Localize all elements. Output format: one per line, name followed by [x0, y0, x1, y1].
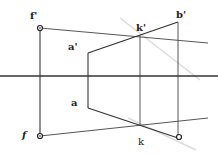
- label-k: k: [138, 136, 145, 147]
- faint-diagonal-upper: [120, 18, 200, 80]
- label-k-prime: k': [136, 22, 146, 33]
- label-a: a: [71, 97, 78, 108]
- line-from-f: [40, 118, 208, 136]
- point-f-center: [39, 135, 41, 137]
- label-f-prime: f': [30, 10, 37, 21]
- label-f: f: [21, 129, 28, 140]
- edge-a-prime-b-prime: [88, 22, 178, 53]
- label-a-prime: a': [68, 41, 78, 52]
- point-b-icon: [177, 135, 182, 140]
- diagram-canvas: f' a' a f k' k b': [0, 0, 218, 154]
- point-f-prime-center: [39, 27, 41, 29]
- label-b-prime: b': [176, 9, 186, 20]
